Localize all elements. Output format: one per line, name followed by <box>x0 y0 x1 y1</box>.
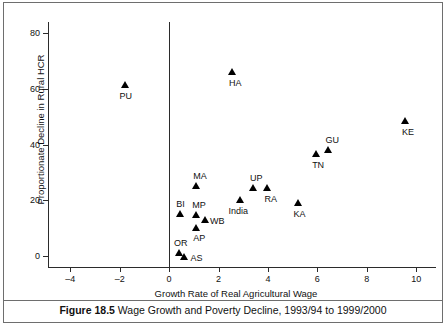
x-axis-tick <box>416 267 417 272</box>
x-axis-tick-label: 0 <box>167 274 172 284</box>
data-point-marker <box>192 211 200 218</box>
data-point-marker <box>121 81 129 88</box>
figure-container: –4–20246810020406080PUHAKEGUTNMAUPRAIndi… <box>0 0 446 326</box>
data-point-label: WB <box>210 216 225 226</box>
data-point-marker <box>192 182 200 189</box>
figure-caption-text: Wage Growth and Poverty Decline, 1993/94… <box>118 304 387 316</box>
x-axis-tick-label: 4 <box>265 274 270 284</box>
y-axis-title-wrap: Proportionate Decline in Rural HCR <box>14 14 28 264</box>
x-axis-tick <box>268 267 269 272</box>
data-point-marker <box>201 216 209 223</box>
data-point-label: RA <box>264 194 277 204</box>
x-axis-tick <box>120 267 121 272</box>
data-point-label: KA <box>294 209 306 219</box>
data-point-marker <box>312 150 320 157</box>
x-axis-tick-label: –4 <box>65 274 75 284</box>
x-axis-tick <box>219 267 220 272</box>
data-point-label: PU <box>120 91 133 101</box>
data-point-label: KE <box>402 127 414 137</box>
data-point-label: UP <box>250 173 263 183</box>
caption-divider <box>4 300 442 301</box>
data-point-marker <box>263 184 271 191</box>
figure-caption: Figure 18.5 Wage Growth and Poverty Decl… <box>4 304 442 316</box>
data-point-marker <box>176 210 184 217</box>
data-point-marker <box>401 117 409 124</box>
x-axis-tick-label: –2 <box>115 274 125 284</box>
data-point-marker <box>294 199 302 206</box>
y-axis-line <box>48 22 49 267</box>
x-axis-line <box>48 267 436 268</box>
x-axis-tick-label: 10 <box>411 274 421 284</box>
x-axis-tick-label: 6 <box>315 274 320 284</box>
x-axis-tick <box>367 267 368 272</box>
y-axis-title: Proportionate Decline in Rural HCR <box>35 20 46 240</box>
x-axis-title: Growth Rate of Real Agricultural Wage <box>36 288 436 299</box>
data-point-label: MA <box>193 171 207 181</box>
data-point-label: MP <box>192 200 206 210</box>
data-point-label: GU <box>325 135 339 145</box>
data-point-label: OR <box>174 238 188 248</box>
data-point-marker <box>192 224 200 231</box>
x-axis-tick <box>169 267 170 272</box>
x-axis-tick-label: 8 <box>364 274 369 284</box>
data-point-label: AP <box>193 233 205 243</box>
data-point-label: BI <box>176 199 185 209</box>
data-point-marker <box>180 253 188 260</box>
x-axis-tick-label: 2 <box>216 274 221 284</box>
data-point-label: TN <box>312 160 324 170</box>
zero-reference-line <box>169 22 170 267</box>
y-axis-tick <box>43 256 48 257</box>
figure-caption-label: Figure 18.5 <box>59 304 114 316</box>
data-point-marker <box>228 68 236 75</box>
x-axis-tick <box>70 267 71 272</box>
data-point-marker <box>236 196 244 203</box>
plot-area: –4–20246810020406080PUHAKEGUTNMAUPRAIndi… <box>36 14 436 276</box>
data-point-label: HA <box>229 78 242 88</box>
plot-canvas: –4–20246810020406080PUHAKEGUTNMAUPRAIndi… <box>36 14 436 276</box>
data-point-marker <box>324 146 332 153</box>
data-point-label: India <box>229 206 249 216</box>
data-point-marker <box>249 184 257 191</box>
data-point-label: AS <box>190 253 202 263</box>
x-axis-tick <box>317 267 318 272</box>
